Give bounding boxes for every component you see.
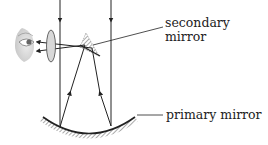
primary-mirror-label: primary mirror [166,108,262,122]
secondary-leader-line [93,27,163,45]
eyepiece-lens [47,30,56,62]
incoming-rays [60,0,111,127]
secondary-mirror-label: secondary mirror [165,16,230,44]
reflected-rays [60,45,111,127]
secondary-label-line2: mirror [165,30,230,44]
eye-icon [15,28,34,62]
primary-mirror [40,117,138,139]
secondary-label-line1: secondary [165,16,230,30]
